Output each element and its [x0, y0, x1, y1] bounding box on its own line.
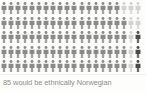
person-icon — [36, 17, 42, 29]
pictogram-cell — [99, 15, 106, 29]
person-icon — [79, 60, 85, 72]
pictogram-cell — [114, 15, 121, 29]
person-icon — [8, 17, 14, 29]
person-icon — [135, 60, 141, 72]
person-icon — [36, 2, 42, 14]
person-icon — [128, 31, 134, 43]
pictogram-chart — [0, 1, 146, 74]
person-icon — [64, 46, 70, 58]
person-icon — [64, 2, 70, 14]
person-icon — [107, 60, 113, 72]
person-icon — [107, 31, 113, 43]
person-icon — [43, 17, 49, 29]
pictogram-cell — [99, 30, 106, 44]
pictogram-cell — [71, 1, 78, 15]
person-icon — [8, 46, 14, 58]
pictogram-cell — [135, 1, 142, 15]
pictogram-cell — [71, 59, 78, 73]
pictogram-cell — [92, 59, 99, 73]
person-icon — [128, 17, 134, 29]
person-icon — [121, 31, 127, 43]
pictogram-cell — [35, 15, 42, 29]
pictogram-row — [0, 59, 146, 73]
person-icon — [79, 2, 85, 14]
person-icon — [29, 60, 35, 72]
person-icon — [15, 2, 21, 14]
person-icon — [22, 31, 28, 43]
person-icon — [22, 60, 28, 72]
pictogram-cell — [28, 15, 35, 29]
person-icon — [71, 60, 77, 72]
pictogram-cell — [106, 44, 113, 58]
pictogram-cell — [135, 30, 142, 44]
person-icon — [50, 17, 56, 29]
person-icon — [86, 2, 92, 14]
person-icon — [8, 31, 14, 43]
person-icon — [100, 60, 106, 72]
pictogram-cell — [57, 30, 64, 44]
pictogram-cell — [57, 15, 64, 29]
pictogram-cell — [135, 15, 142, 29]
person-icon — [114, 46, 120, 58]
pictogram-cell — [121, 44, 128, 58]
pictogram-cell — [64, 1, 71, 15]
person-icon — [50, 60, 56, 72]
pictogram-cell — [78, 44, 85, 58]
person-icon — [135, 17, 141, 29]
pictogram-cell — [85, 44, 92, 58]
pictogram-cell — [128, 44, 135, 58]
pictogram-cell — [21, 44, 28, 58]
pictogram-cell — [21, 59, 28, 73]
person-icon — [121, 17, 127, 29]
pictogram-cell — [50, 44, 57, 58]
pictogram-cell — [57, 44, 64, 58]
pictogram-cell — [106, 15, 113, 29]
pictogram-cell — [64, 15, 71, 29]
person-icon — [8, 60, 14, 72]
pictogram-cell — [71, 44, 78, 58]
pictogram-cell — [92, 1, 99, 15]
pictogram-cell — [128, 1, 135, 15]
person-icon — [114, 17, 120, 29]
pictogram-cell — [99, 44, 106, 58]
pictogram-cell — [64, 59, 71, 73]
pictogram-cell — [106, 30, 113, 44]
person-icon — [43, 60, 49, 72]
pictogram-row — [0, 30, 146, 44]
person-icon — [1, 46, 7, 58]
pictogram-cell — [35, 1, 42, 15]
pictogram-cell — [14, 15, 21, 29]
person-icon — [93, 46, 99, 58]
pictogram-cell — [64, 30, 71, 44]
person-icon — [128, 60, 134, 72]
person-icon — [114, 60, 120, 72]
person-icon — [15, 60, 21, 72]
pictogram-cell — [43, 1, 50, 15]
pictogram-cell — [43, 30, 50, 44]
pictogram-cell — [128, 15, 135, 29]
person-icon — [57, 17, 63, 29]
person-icon — [36, 46, 42, 58]
person-icon — [57, 2, 63, 14]
person-icon — [100, 31, 106, 43]
person-icon — [121, 2, 127, 14]
pictogram-cell — [14, 1, 21, 15]
person-icon — [22, 2, 28, 14]
pictogram-cell — [0, 15, 7, 29]
pictogram-cell — [99, 59, 106, 73]
pictogram-cell — [7, 1, 14, 15]
person-icon — [71, 2, 77, 14]
pictogram-row — [0, 44, 146, 58]
pictogram-cell — [114, 1, 121, 15]
pictogram-cell — [99, 1, 106, 15]
person-icon — [93, 17, 99, 29]
pictogram-cell — [78, 1, 85, 15]
person-icon — [36, 31, 42, 43]
person-icon — [86, 31, 92, 43]
pictogram-cell — [121, 30, 128, 44]
person-icon — [128, 2, 134, 14]
pictogram-cell — [57, 59, 64, 73]
person-icon — [100, 2, 106, 14]
chart-caption: 85 would be ethnically Norwegian — [3, 76, 143, 89]
pictogram-cell — [121, 1, 128, 15]
